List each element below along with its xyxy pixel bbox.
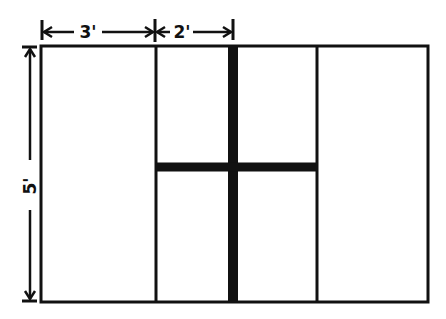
dimension-label-3ft: 3' <box>79 22 96 42</box>
top-dimension: 3' 2' <box>42 19 233 42</box>
dimension-label-5ft: 5' <box>20 177 40 194</box>
panel-diagram: 3' 2' 5' <box>0 0 446 319</box>
dimension-label-2ft: 2' <box>173 22 190 42</box>
left-dimension: 5' <box>20 47 40 301</box>
